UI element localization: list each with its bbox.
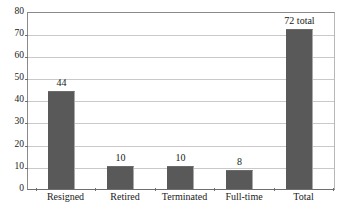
bar-value-label-full-time: 8	[226, 157, 253, 167]
bar-value-label-resigned: 44	[48, 78, 75, 88]
x-tick-label-terminated: Terminated	[155, 192, 214, 202]
x-tickmark	[95, 188, 96, 191]
bar-retired	[107, 166, 134, 189]
bar-total	[286, 29, 313, 189]
y-tick-label: 10	[2, 162, 24, 172]
x-tick-label-resigned: Resigned	[36, 192, 95, 202]
bar-full-time	[226, 170, 253, 189]
x-tick-label-total: Total	[274, 192, 333, 202]
x-tickmark	[36, 188, 37, 191]
x-tickmark	[274, 188, 275, 191]
bar-value-label-total: 72 total	[274, 16, 325, 26]
y-tick-label: 80	[2, 7, 24, 17]
y-tick-label: 40	[2, 95, 24, 105]
x-tickmark	[214, 188, 215, 191]
x-tickmark	[155, 188, 156, 191]
y-tick-label: 70	[2, 29, 24, 39]
y-tick-label: 60	[2, 51, 24, 61]
bar-resigned	[48, 91, 75, 189]
y-tick-label: 0	[2, 184, 24, 194]
x-tick-label-retired: Retired	[95, 192, 155, 202]
x-tick-label-full-time: Full-time	[214, 192, 274, 202]
y-tick-label: 50	[2, 73, 24, 83]
y-tick-label: 20	[2, 140, 24, 150]
y-axis: 80 70 60 50 40 30 20 10 0	[0, 0, 24, 214]
bars-layer: 44 10 10 8 72 total	[27, 12, 335, 190]
bar-value-label-terminated: 10	[167, 153, 194, 163]
y-tick-label: 30	[2, 117, 24, 127]
bar-value-label-retired: 10	[107, 153, 134, 163]
bar-terminated	[167, 166, 194, 189]
x-axis: Resigned Retired Terminated Full-time To…	[27, 192, 335, 212]
x-tickmark	[333, 188, 334, 191]
bar-chart: 80 70 60 50 40 30 20 10 0 44 10 10 8 72 …	[0, 0, 352, 214]
